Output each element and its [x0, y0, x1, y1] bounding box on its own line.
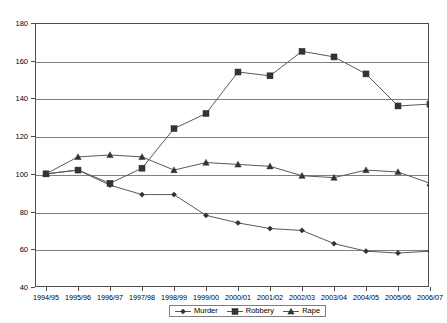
x-tick-label-2006-07: 2006/07: [417, 293, 443, 302]
data-point-robbery-1996-97: [107, 180, 113, 186]
data-point-robbery-1998-99: [171, 126, 177, 132]
x-tick-mark-2002-03: [302, 287, 303, 291]
data-point-murder-1998-99: [171, 192, 176, 197]
y-tick-label-180: 180: [15, 19, 28, 28]
x-tick-mark-2001-02: [270, 287, 271, 291]
y-tick-label-100: 100: [15, 169, 28, 178]
x-tick-mark-1996-97: [110, 287, 111, 291]
x-tick-label-2000-01: 2000/01: [225, 293, 251, 302]
series-line-rape: [46, 155, 429, 183]
y-tick-label-60: 60: [20, 245, 28, 254]
x-tick-label-1997-98: 1997/98: [129, 293, 155, 302]
data-point-robbery-2002-03: [299, 48, 305, 54]
y-tick-label-40: 40: [20, 283, 28, 292]
x-tick-label-1995-96: 1995/96: [65, 293, 91, 302]
x-tick-label-1996-97: 1996/97: [97, 293, 123, 302]
data-point-robbery-2004-05: [363, 71, 369, 77]
data-point-robbery-2005-06: [395, 103, 401, 109]
legend-label-robbery: Robbery: [246, 307, 274, 315]
data-point-murder-2003-04: [331, 241, 336, 246]
series-murder: [43, 167, 429, 255]
legend-entry-robbery[interactable]: Robbery: [227, 307, 274, 316]
x-tick-mark-2006-07: [430, 287, 431, 291]
x-tick-mark-1994-95: [46, 287, 47, 291]
x-tick-label-2003-04: 2003/04: [321, 293, 347, 302]
x-tick-label-2001-02: 2001/02: [257, 293, 283, 302]
x-tick-mark-2005-06: [398, 287, 399, 291]
x-tick-mark-2004-05: [366, 287, 367, 291]
x-tick-label-1994-95: 1994/95: [33, 293, 59, 302]
legend-diamond-icon: [175, 307, 191, 316]
data-point-robbery-2003-04: [331, 54, 337, 60]
data-point-robbery-1997-98: [139, 165, 145, 171]
series-layer: [35, 23, 429, 287]
data-point-murder-1999-00: [203, 213, 208, 218]
y-tick-label-160: 160: [15, 56, 28, 65]
data-point-murder-2000-01: [235, 220, 240, 225]
data-point-murder-2001-02: [267, 226, 272, 231]
x-tick-mark-2000-01: [238, 287, 239, 291]
data-point-robbery-2001-02: [267, 73, 273, 79]
x-tick-label-2005-06: 2005/06: [385, 293, 411, 302]
x-tick-label-1998-99: 1998/99: [161, 293, 187, 302]
x-tick-mark-1997-98: [142, 287, 143, 291]
y-tick-label-120: 120: [15, 132, 28, 141]
y-tick-label-140: 140: [15, 94, 28, 103]
legend-entry-rape[interactable]: Rape: [283, 307, 320, 316]
data-point-robbery-2006-07: [427, 101, 429, 107]
legend-entry-murder[interactable]: Murder: [175, 307, 218, 316]
line-chart: 180160140120100806040 MurderRobberyRape …: [0, 0, 447, 323]
data-point-murder-1997-98: [139, 192, 144, 197]
data-point-murder-2004-05: [363, 249, 368, 254]
x-tick-mark-1999-00: [206, 287, 207, 291]
data-point-murder-2006-07: [427, 249, 429, 254]
y-axis: 180160140120100806040: [0, 0, 35, 292]
x-tick-label-1999-00: 1999/00: [193, 293, 219, 302]
data-point-robbery-2000-01: [235, 69, 241, 75]
data-point-robbery-1999-00: [203, 111, 209, 117]
series-line-murder: [46, 170, 429, 253]
y-tick-mark-40: [31, 287, 35, 288]
chart-legend: MurderRobberyRape: [169, 305, 326, 317]
x-tick-mark-1995-96: [78, 287, 79, 291]
legend-triangle-icon: [283, 307, 299, 316]
x-tick-label-2004-05: 2004/05: [353, 293, 379, 302]
y-tick-label-80: 80: [20, 207, 28, 216]
legend-square-icon: [227, 307, 243, 316]
legend-label-murder: Murder: [194, 307, 218, 315]
data-point-robbery-1995-96: [75, 167, 81, 173]
x-tick-mark-1998-99: [174, 287, 175, 291]
x-tick-mark-2003-04: [334, 287, 335, 291]
data-point-murder-2005-06: [395, 250, 400, 255]
x-tick-label-2002-03: 2002/03: [289, 293, 315, 302]
legend-label-rape: Rape: [302, 307, 320, 315]
data-point-murder-2002-03: [299, 228, 304, 233]
